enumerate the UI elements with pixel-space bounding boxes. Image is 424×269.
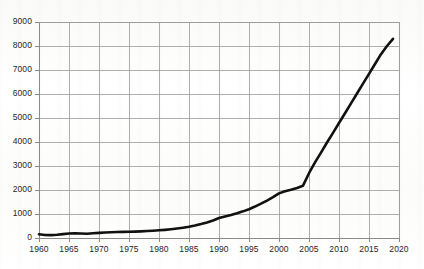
x-tick-label: 2015 — [353, 245, 385, 254]
x-tick-label: 1970 — [83, 245, 115, 254]
y-tick-label: 4000 — [13, 137, 32, 146]
x-tick-label: 1995 — [233, 245, 265, 254]
x-tick-label: 2005 — [293, 245, 325, 254]
grid-lines — [39, 22, 400, 238]
y-tick-label: 5000 — [13, 113, 32, 122]
x-tick-label: 1980 — [143, 245, 175, 254]
y-tick-label: 2000 — [13, 185, 32, 194]
y-tick-label: 6000 — [13, 89, 32, 98]
y-tick-label: 7000 — [13, 65, 32, 74]
line-chart-figure: 0100020003000400050006000700080009000 19… — [0, 0, 424, 269]
x-tick-label: 2020 — [383, 245, 415, 254]
x-tick-label: 2010 — [323, 245, 355, 254]
y-tick-label: 3000 — [13, 161, 32, 170]
tick-marks — [35, 23, 400, 243]
x-tick-label: 1985 — [173, 245, 205, 254]
y-tick-label: 9000 — [13, 17, 32, 26]
x-tick-label: 1965 — [53, 245, 85, 254]
x-tick-label: 1975 — [113, 245, 145, 254]
y-tick-label: 8000 — [13, 41, 32, 50]
y-tick-label: 0 — [27, 233, 32, 242]
plot-canvas — [0, 0, 424, 269]
x-tick-label: 1990 — [203, 245, 235, 254]
y-tick-label: 1000 — [13, 209, 32, 218]
x-tick-label: 2000 — [263, 245, 295, 254]
x-tick-label: 1960 — [23, 245, 55, 254]
